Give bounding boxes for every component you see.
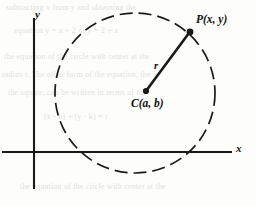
x-axis-label: x (236, 143, 242, 154)
y-axis-label: y (35, 9, 40, 20)
point-p-label: P(x, y) (196, 14, 227, 26)
center-point-dot (143, 88, 149, 94)
radius-label: r (154, 61, 158, 72)
point-p-dot (187, 29, 194, 36)
center-label: C(a, b) (131, 98, 164, 110)
radius-segment (146, 33, 189, 91)
figure-container: subtracting x from y and obtaining the e… (0, 0, 256, 206)
geometry-figure (0, 0, 256, 206)
circle-shape (55, 13, 215, 173)
